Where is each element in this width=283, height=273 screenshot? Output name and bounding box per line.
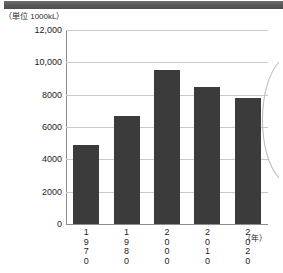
chart-page: （単位 1000kL） 12,00010,0008000600040002000… (0, 0, 283, 273)
y-axis-unit-caption: （単位 1000kL） (4, 10, 64, 21)
x-tick-digit: 0 (79, 257, 93, 267)
bar-1980 (114, 116, 140, 224)
bar-1970 (73, 145, 99, 224)
x-tick-digit: 0 (241, 257, 255, 267)
top-banner-decoration (4, 1, 283, 9)
y-tick-label: 8000 (18, 90, 62, 100)
x-tick-digit: 0 (160, 257, 174, 267)
bar-2020 (235, 98, 261, 224)
x-tick-label-2000: 2000 (160, 228, 174, 266)
gridline (66, 62, 268, 63)
gridline (66, 30, 268, 31)
y-tick-label: 12,000 (18, 25, 62, 35)
x-axis-tick-labels: 19701980200020102020 (66, 228, 268, 273)
y-axis-tick-labels: 12,00010,00080006000400020000 (16, 30, 62, 224)
bar-2010 (194, 87, 220, 224)
bar-2000 (154, 70, 180, 224)
y-tick-label: 0 (18, 219, 62, 229)
x-axis-baseline (66, 224, 268, 225)
plot-area (66, 30, 268, 224)
x-tick-label-1980: 1980 (120, 228, 134, 266)
x-tick-label-2010: 2010 (200, 228, 214, 266)
x-axis-unit-label: （年） (243, 232, 267, 243)
y-tick-label: 6000 (18, 122, 62, 132)
x-tick-digit: 0 (120, 257, 134, 267)
y-tick-label: 4000 (18, 154, 62, 164)
x-tick-digit: 0 (200, 257, 214, 267)
y-tick-label: 10,000 (18, 57, 62, 67)
y-tick-label: 2000 (18, 187, 62, 197)
x-tick-label-1970: 1970 (79, 228, 93, 266)
